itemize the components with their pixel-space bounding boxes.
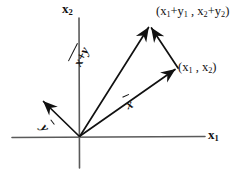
axis-label-x2: x2 [62, 2, 73, 17]
vector-y-arrow [44, 102, 80, 137]
sum-label-sub-2: 1 [184, 10, 188, 19]
axis-horizontal [12, 137, 205, 138]
axis-label-x1: x1 [208, 128, 219, 143]
sum-point-label: (x1+y1 , x2+y2) [156, 5, 229, 20]
vector-x-plus-y-arrow [80, 28, 149, 137]
axis-label-x2-sub: 2 [69, 7, 73, 17]
sum-label-sub-3: 2 [204, 10, 208, 19]
axis-label-x1-sub: 1 [215, 133, 219, 143]
x-label-sub-2: 2 [208, 66, 212, 75]
axis-vertical [79, 18, 80, 168]
vector-y-translated-arrow [152, 28, 179, 68]
x-label-sub-1: 1 [188, 66, 192, 75]
vector-addition-diagram: x2 x1 (x1+y1 , x2+y2) (x1 , x2) x+y x y [0, 0, 232, 177]
x-point-label: (x1 , x2) [178, 61, 216, 76]
sum-label-sub-4: 2 [221, 10, 225, 19]
diagram-canvas [0, 0, 232, 177]
sum-label-sub-1: 1 [166, 10, 170, 19]
